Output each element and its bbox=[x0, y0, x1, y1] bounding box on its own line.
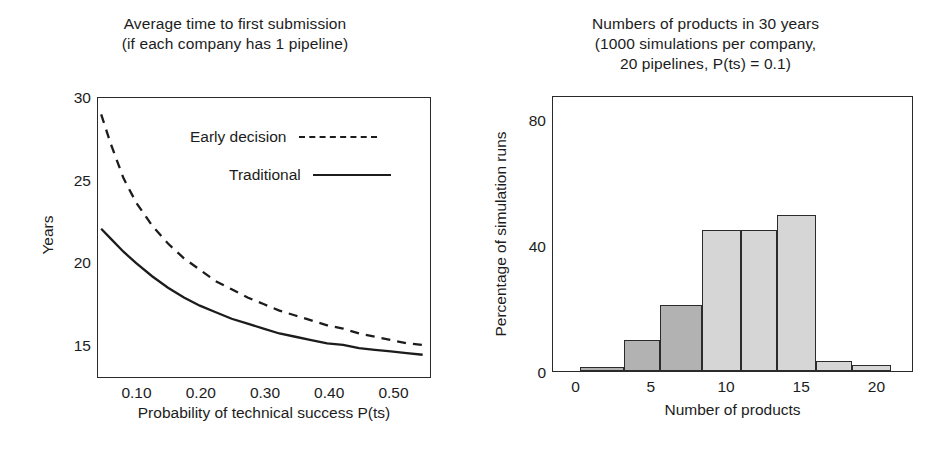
right-title-line-2: (1000 simulations per company, bbox=[470, 34, 941, 54]
figure-root: Average time to first submission (if eac… bbox=[0, 0, 941, 470]
left-plot-area: 30 25 20 15 0.10 0.20 0.30 0.40 0.50 Ear… bbox=[97, 97, 431, 378]
right-xtick-0: 0 bbox=[571, 378, 580, 396]
right-chart-panel: Numbers of products in 30 years (1000 si… bbox=[470, 0, 941, 470]
histogram-bar bbox=[777, 215, 816, 371]
left-y-axis-label: Years bbox=[38, 180, 58, 290]
legend-label-traditional: Traditional bbox=[229, 166, 301, 184]
histogram-bar bbox=[741, 230, 777, 371]
left-xtick-040: 0.40 bbox=[314, 384, 344, 402]
left-x-axis-label: Probability of technical success P(ts) bbox=[97, 403, 431, 423]
left-xtick-050: 0.50 bbox=[378, 384, 408, 402]
right-xtick-15: 15 bbox=[793, 378, 810, 396]
histogram-bar bbox=[580, 367, 624, 371]
histogram-bar bbox=[816, 361, 852, 372]
histogram-bar bbox=[624, 340, 660, 372]
histogram-bar bbox=[660, 305, 702, 371]
left-ytick-20: 20 bbox=[74, 254, 91, 272]
legend-entry-traditional[interactable]: Traditional bbox=[229, 166, 391, 184]
right-ytick-80: 80 bbox=[529, 112, 546, 130]
legend-label-early-decision: Early decision bbox=[190, 128, 287, 146]
right-chart-title: Numbers of products in 30 years (1000 si… bbox=[470, 14, 941, 74]
left-title-line-1: Average time to first submission bbox=[0, 14, 470, 34]
curve-early-decision bbox=[101, 114, 422, 345]
left-title-line-2: (if each company has 1 pipeline) bbox=[0, 34, 470, 54]
left-chart-panel: Average time to first submission (if eac… bbox=[0, 0, 470, 470]
right-plot-area: 80 40 0 0 5 10 15 20 bbox=[552, 96, 913, 372]
right-ytick-40: 40 bbox=[529, 238, 546, 256]
left-ytick-15: 15 bbox=[74, 337, 91, 355]
left-chart-title: Average time to first submission (if eac… bbox=[0, 14, 470, 54]
left-xlabel-line-2: P(ts) bbox=[357, 404, 390, 421]
right-title-line-1: Numbers of products in 30 years bbox=[470, 14, 941, 34]
left-ytick-30: 30 bbox=[74, 89, 91, 107]
right-x-axis-label: Number of products bbox=[552, 400, 913, 420]
legend-swatch-solid-line bbox=[313, 174, 391, 176]
histogram-bars-layer bbox=[553, 97, 912, 371]
right-title-line-3: 20 pipelines, P(ts) = 0.1) bbox=[470, 54, 941, 74]
right-xtick-5: 5 bbox=[646, 378, 655, 396]
right-xtick-10: 10 bbox=[717, 378, 734, 396]
histogram-bar bbox=[852, 365, 891, 371]
right-ytick-0: 0 bbox=[537, 364, 546, 382]
legend-swatch-dashed-line bbox=[299, 136, 377, 138]
histogram-bar bbox=[702, 230, 741, 371]
right-xtick-20: 20 bbox=[868, 378, 885, 396]
legend-entry-early-decision[interactable]: Early decision bbox=[190, 128, 377, 146]
left-xtick-010: 0.10 bbox=[121, 384, 151, 402]
right-y-axis-label: Percentage of simulation runs bbox=[491, 96, 511, 372]
left-xtick-030: 0.30 bbox=[250, 384, 280, 402]
left-xlabel-line-1: Probability of technical success bbox=[138, 404, 353, 421]
left-xtick-020: 0.20 bbox=[186, 384, 216, 402]
left-ytick-25: 25 bbox=[74, 172, 91, 190]
